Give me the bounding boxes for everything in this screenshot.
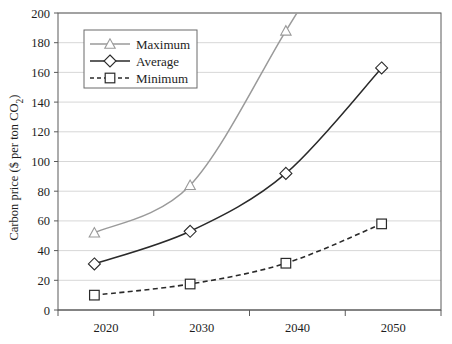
marker-square — [105, 73, 115, 83]
marker-square — [377, 219, 387, 229]
x-axis: 2020203020402050 — [58, 310, 441, 335]
y-tick-label-0: 0 — [44, 304, 50, 318]
legend-label-maximum: Maximum — [136, 37, 190, 52]
y-tick-label-160: 160 — [31, 66, 50, 80]
y-tick-label-40: 40 — [38, 244, 51, 258]
marker-diamond — [184, 225, 196, 237]
legend-label-minimum: Minimum — [136, 71, 188, 86]
x-tick-label-2030: 2030 — [189, 321, 214, 335]
marker-diamond — [88, 258, 100, 270]
y-tick-label-20: 20 — [38, 274, 51, 288]
y-axis-title-text: Carbon price ($ per ton CO2) — [7, 94, 25, 240]
marker-triangle — [89, 228, 99, 237]
y-tick-label-180: 180 — [31, 36, 50, 50]
x-tick-label-2040: 2040 — [285, 321, 310, 335]
x-tick-label-2050: 2050 — [381, 321, 406, 335]
carbon-price-line-chart: 0204060801001201401601802002020203020402… — [0, 0, 452, 344]
chart-container: 0204060801001201401601802002020203020402… — [0, 0, 452, 344]
marker-square — [90, 290, 100, 300]
series-line-average — [94, 68, 381, 264]
marker-triangle — [281, 26, 291, 35]
series-minimum — [90, 219, 387, 300]
y-tick-label-120: 120 — [31, 125, 50, 139]
y-tick-label-80: 80 — [38, 185, 51, 199]
series-line-minimum — [94, 224, 381, 295]
series-average — [88, 62, 387, 270]
y-axis: 020406080100120140160180200 — [31, 7, 58, 318]
y-tick-label-60: 60 — [38, 214, 51, 228]
legend-item-minimum[interactable]: Minimum — [90, 71, 188, 86]
y-tick-label-100: 100 — [31, 155, 50, 169]
y-tick-label-140: 140 — [31, 96, 50, 110]
y-tick-label-200: 200 — [31, 7, 50, 21]
marker-square — [185, 279, 195, 289]
legend-label-average: Average — [136, 54, 179, 69]
legend: MaximumAverageMinimum — [84, 30, 197, 88]
marker-square — [281, 258, 291, 268]
y-axis-title: Carbon price ($ per ton CO2) — [7, 94, 25, 240]
x-tick-label-2020: 2020 — [93, 321, 118, 335]
